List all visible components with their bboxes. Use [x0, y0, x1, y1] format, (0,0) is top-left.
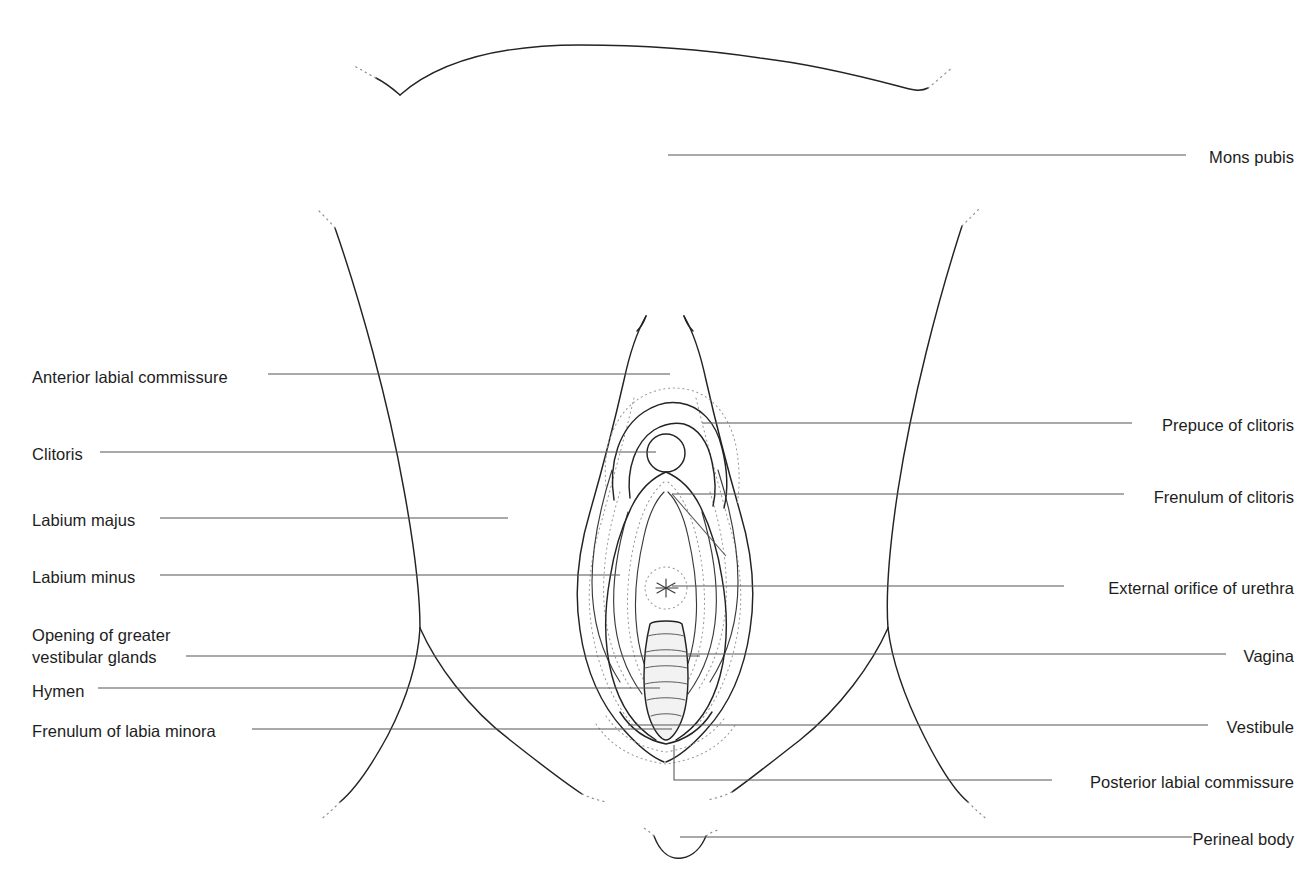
- anatomical-figure: Anterior labial commissureClitorisLabium…: [0, 0, 1316, 881]
- label-frenulum-of-clitoris: Frenulum of clitoris: [0, 486, 1294, 508]
- thigh-right-lower-fade: [968, 802, 988, 820]
- thigh-left-fold-fade: [582, 794, 606, 802]
- label-vestibule: Vestibule: [0, 716, 1294, 738]
- label-external-orifice-of-urethra: External orifice of urethra: [0, 577, 1294, 599]
- abdominal-contour-left-tip: [376, 78, 400, 95]
- label-anterior-labial-commissure: Anterior labial commissure: [32, 366, 228, 388]
- label-perineal-body: Perineal body: [0, 828, 1294, 850]
- label-hymen: Hymen: [32, 680, 85, 702]
- label-prepuce-of-clitoris: Prepuce of clitoris: [0, 414, 1294, 436]
- label-mons-pubis: Mons pubis: [0, 146, 1294, 168]
- label-vagina: Vagina: [0, 645, 1294, 667]
- label-clitoris: Clitoris: [32, 443, 83, 465]
- abdominal-contour-main: [400, 45, 928, 95]
- anatomy-drawing-canvas: [0, 0, 1316, 881]
- label-labium-majus: Labium majus: [32, 509, 135, 531]
- thigh-right-fold-fade: [708, 792, 732, 800]
- abdominal-contour-right-fade: [928, 68, 952, 88]
- thigh-left-lower-fade: [320, 802, 340, 820]
- label-posterior-labial-commissure: Posterior labial commissure: [0, 771, 1294, 793]
- mons-pubis-contour: [354, 45, 952, 95]
- clitoris-glans-circle: [647, 434, 685, 472]
- thigh-right-upper-fade: [962, 208, 980, 226]
- thigh-left-upper-fade: [318, 210, 335, 228]
- clitoris-glans: [647, 434, 685, 472]
- abdominal-contour-left-fade: [354, 66, 376, 78]
